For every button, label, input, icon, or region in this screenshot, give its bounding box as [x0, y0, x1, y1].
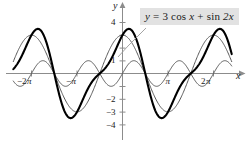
y-axis-label: y [113, 0, 117, 11]
x-tick-label-neg-2pi: −2π [17, 76, 32, 86]
y-axis-arrowhead [120, 2, 126, 8]
y-tick-label-1: 1 [111, 55, 116, 65]
callout-var1: x [186, 10, 197, 22]
callout-eq: = 3 [150, 10, 171, 22]
x-tick-label-pi: π [165, 76, 170, 86]
callout-sin: sin [207, 10, 220, 22]
x-tick-label-2pi: 2π [201, 76, 211, 86]
equation-callout: y = 3 cos x + sin 2x [140, 8, 239, 25]
callout-var2: 2x [220, 10, 234, 22]
callout-plus: + [197, 10, 206, 22]
y-tick-label-4: 4 [111, 17, 116, 27]
trig-graph-figure: y = 3 cos x + sin 2x y x −2π −π π 2π 4 1… [0, 0, 247, 146]
y-tick-label-neg-4: −4 [106, 120, 116, 130]
y-tick-label-neg-3: −3 [106, 107, 116, 117]
x-tick-label-neg-pi: −π [66, 76, 76, 86]
callout-cos: cos [171, 10, 186, 22]
x-axis-label: x [236, 70, 240, 81]
y-tick-label-neg-2: −2 [106, 94, 116, 104]
